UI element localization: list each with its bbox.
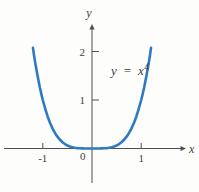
x-ticks: -11 bbox=[38, 143, 144, 164]
y-tick-label: 2 bbox=[80, 46, 86, 58]
equation-exponent: 4 bbox=[144, 62, 149, 72]
equation-label: y = x4 bbox=[109, 62, 150, 78]
plot-figure: x -11 y 12 0 y = x4 bbox=[0, 0, 199, 192]
x-axis-arrowhead-icon bbox=[181, 146, 187, 151]
x-tick-label: 1 bbox=[138, 152, 144, 164]
y-axis-label: y bbox=[85, 6, 92, 20]
y-axis-arrowhead-icon bbox=[89, 24, 94, 30]
y-ticks: 12 bbox=[80, 46, 100, 107]
y-tick-label: 1 bbox=[80, 94, 86, 106]
x-axis-label: x bbox=[188, 142, 195, 156]
y-axis: y 12 0 bbox=[80, 6, 100, 183]
origin-label: 0 bbox=[80, 150, 86, 162]
equation-base: y = x bbox=[109, 63, 144, 78]
x-tick-label: -1 bbox=[38, 152, 47, 164]
x-axis: x -11 bbox=[4, 142, 195, 164]
plot-canvas: x -11 y 12 0 y = x4 bbox=[0, 0, 199, 192]
